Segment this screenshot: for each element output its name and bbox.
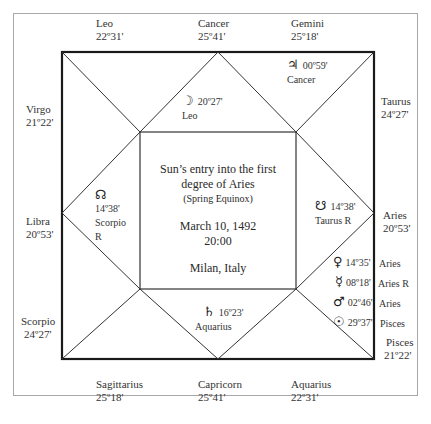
planet-degree: 14º35' [346, 257, 371, 268]
mercury-icon: ☿ [335, 274, 343, 289]
planet-sun: ☉29º37' [333, 315, 373, 329]
cusp-left-upper: Virgo 21º22' [26, 103, 53, 129]
planet-north-node: ☊ 14º38' Scorpio R [95, 188, 126, 244]
south-node-icon: ☋ [315, 198, 327, 213]
saturn-icon: ♄ [203, 304, 215, 319]
planet-sign: Cancer [287, 73, 328, 87]
planet-saturn: ♄16º23' Aquarius [203, 305, 244, 334]
chart-place: Milan, Italy [140, 261, 296, 276]
planet-degree: 29º37' [348, 317, 373, 328]
cusp-sign: Leo [96, 17, 113, 29]
cusp-sign: Gemini [291, 17, 324, 29]
planet-jupiter: ♃00º59' Cancer [287, 58, 328, 87]
chart-date: March 10, 1492 [140, 219, 296, 234]
planet-sign: Taurus R [315, 214, 355, 228]
cusp-bottom-center: Capricorn 25º41' [198, 378, 242, 404]
cusp-top-center: Cancer 25º41' [198, 17, 229, 43]
jupiter-icon: ♃ [287, 57, 299, 72]
north-node-icon: ☊ [95, 188, 122, 202]
cusp-degree: 25º41' [198, 391, 242, 404]
cusp-bottom-left: Sagittarius 25º18' [96, 378, 143, 404]
cusp-degree: 25º18' [291, 30, 324, 43]
chart-info: Sun’s entry into the first degree of Ari… [140, 132, 296, 289]
cusp-sign: Scorpio [21, 315, 55, 327]
cusp-bottom-right: Aquarius 22º31' [291, 378, 331, 404]
planet-south-node: ☋14º38' Taurus R [315, 199, 355, 228]
cusp-degree: 21º22' [384, 349, 414, 362]
cusp-left-lower: Scorpio 24º27' [21, 315, 55, 341]
chart-title-line1: Sun’s entry into the first [140, 162, 296, 177]
cusp-degree: 24º27' [381, 108, 411, 121]
cusp-top-right: Gemini 25º18' [291, 17, 324, 43]
planet-sign: Scorpio [95, 216, 126, 230]
cusp-right-upper: Taurus 24º27' [381, 95, 411, 121]
cusp-right-lower: Pisces 21º22' [384, 336, 414, 362]
planet-sign: Aquarius [195, 320, 244, 334]
planet-mars-sign: Aries [379, 297, 401, 310]
planet-degree: 14º38' [331, 201, 356, 212]
cusp-sign: Pisces [384, 336, 414, 348]
cusp-right-middle: Aries 20º53' [383, 209, 410, 235]
planet-degree: 00º59' [303, 60, 328, 71]
sun-icon: ☉ [333, 314, 345, 329]
cusp-sign: Libra [26, 215, 50, 227]
cusp-degree: 22º31' [291, 391, 331, 404]
planet-mercury-sign: Aries R [378, 277, 409, 290]
cusp-sign: Aquarius [291, 378, 331, 390]
cusp-degree: 21º22' [26, 116, 53, 129]
planet-sign: Leo [182, 109, 223, 123]
planet-mercury: ☿08º18' [335, 275, 371, 289]
cusp-sign: Aries [383, 209, 407, 221]
cusp-sign: Virgo [26, 103, 51, 115]
planet-venus: ♀14º35' [333, 255, 370, 269]
mars-icon: ♂ [333, 294, 345, 309]
planet-mars: ♂02º46' [333, 295, 373, 309]
cusp-degree: 20º53' [26, 228, 53, 241]
chart-title-line2: degree of Aries [140, 177, 296, 192]
cusp-top-left: Leo 22º31' [96, 17, 123, 43]
planet-degree: 08º18' [346, 277, 371, 288]
cusp-sign: Taurus [381, 95, 411, 107]
chart-time: 20:00 [140, 234, 296, 249]
cusp-degree: 25º41' [198, 30, 229, 43]
chart-subtitle: (Spring Equinox) [140, 192, 296, 205]
planet-moon: ☽20º27' Leo [182, 94, 223, 123]
planet-retrograde: R [95, 230, 126, 244]
planet-venus-sign: Aries [379, 257, 401, 270]
cusp-degree: 22º31' [96, 30, 123, 43]
cusp-sign: Sagittarius [96, 378, 143, 390]
cusp-sign: Capricorn [198, 378, 242, 390]
planet-degree: 14º38' [95, 202, 126, 216]
cusp-degree: 24º27' [21, 328, 55, 341]
planet-degree: 20º27' [198, 96, 223, 107]
planet-degree: 16º23' [219, 307, 244, 318]
cusp-sign: Cancer [198, 17, 229, 29]
cusp-left-middle: Libra 20º53' [26, 215, 53, 241]
moon-icon: ☽ [182, 93, 194, 108]
cusp-degree: 20º53' [383, 222, 410, 235]
planet-sun-sign: Pisces [380, 317, 405, 330]
venus-icon: ♀ [333, 254, 343, 269]
planet-degree: 02º46' [348, 297, 373, 308]
cusp-degree: 25º18' [96, 391, 143, 404]
